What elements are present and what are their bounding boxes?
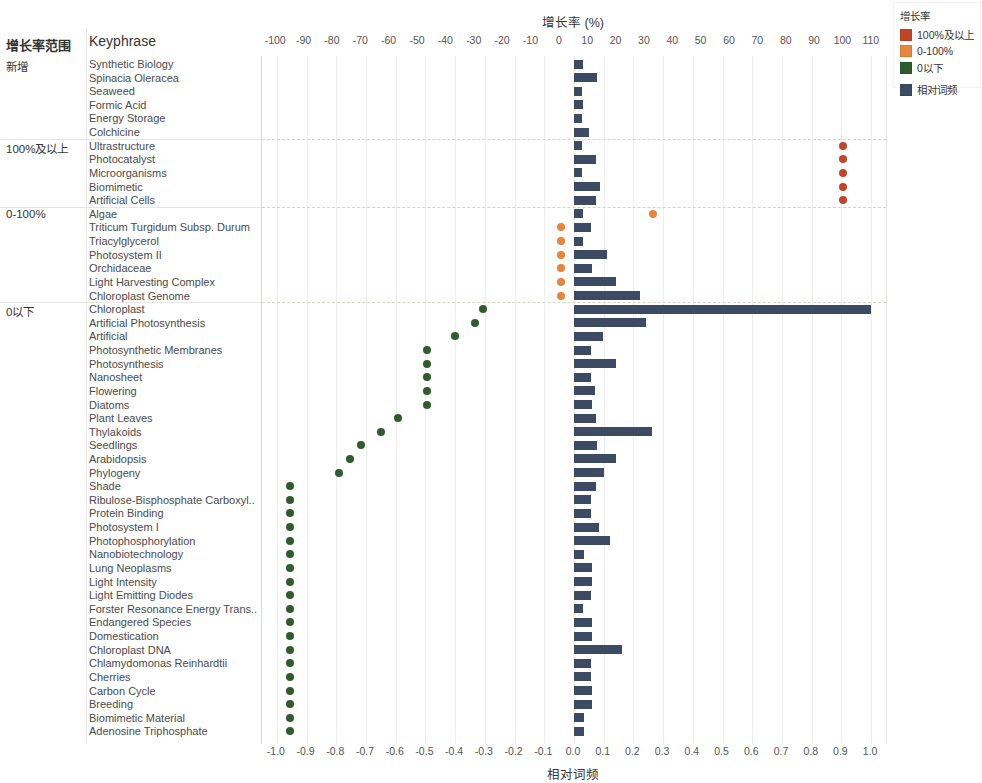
growth-rate-dot: [423, 387, 431, 395]
frequency-bar: [574, 700, 592, 709]
keyphrase-label: Shade: [89, 480, 121, 492]
frequency-bar: [574, 414, 596, 423]
growth-rate-dot: [471, 319, 479, 327]
keyphrase-label: Breeding: [89, 698, 133, 710]
top-axis-tick: 100: [834, 34, 852, 46]
keyphrase-label: Light Harvesting Complex: [89, 276, 215, 288]
column-header-keyphrase: Keyphrase: [89, 33, 156, 49]
legend-item[interactable]: 0-100%: [900, 45, 978, 57]
bottom-axis-tick: 0.7: [774, 745, 789, 757]
growth-rate-dot: [423, 401, 431, 409]
group-label-above100: 100%及以上: [6, 140, 68, 156]
frequency-bar: [574, 264, 592, 273]
frequency-bar: [574, 155, 596, 164]
keyphrase-label: Chloroplast: [89, 303, 145, 315]
growth-rate-dot: [286, 632, 294, 640]
frequency-bar: [574, 727, 584, 736]
growth-rate-dot: [286, 496, 294, 504]
plot-area: [261, 56, 887, 744]
keyphrase-label: Ribulose-Bisphosphate Carboxyl..: [89, 494, 255, 506]
gridline: [871, 56, 872, 744]
keyphrase-label: Ultrastructure: [89, 140, 155, 152]
frequency-bar: [574, 454, 616, 463]
gridline: [396, 56, 397, 744]
bottom-axis-tick: 1.0: [863, 745, 878, 757]
top-axis-tick: -10: [523, 34, 538, 46]
keyphrase-label: Artificial: [89, 330, 128, 342]
legend-item-label: 0以下: [917, 60, 943, 75]
keyphrase-label: Photosynthesis: [89, 358, 164, 370]
frequency-bar: [574, 291, 640, 300]
gridline: [604, 56, 605, 744]
frequency-bar: [574, 223, 591, 232]
keyphrase-label: Colchicine: [89, 126, 140, 138]
growth-rate-dot: [286, 509, 294, 517]
keyphrase-label: Protein Binding: [89, 507, 164, 519]
keyphrase-label: Synthetic Biology: [89, 58, 173, 70]
top-axis-tick: -100: [265, 34, 286, 46]
keyphrase-label: Biomimetic Material: [89, 712, 185, 724]
keyphrase-label: Energy Storage: [89, 112, 165, 124]
frequency-bar: [574, 686, 592, 695]
top-axis-tick: -30: [466, 34, 481, 46]
keyphrase-label: Carbon Cycle: [89, 685, 156, 697]
keyphrase-label: Nanobiotechnology: [89, 548, 183, 560]
growth-rate-dot: [557, 264, 565, 272]
growth-rate-dot: [286, 687, 294, 695]
legend-item[interactable]: 相对词频: [900, 82, 978, 97]
bottom-axis-tick: 0.8: [803, 745, 818, 757]
top-axis-tick: -20: [494, 34, 509, 46]
frequency-bar: [574, 209, 583, 218]
top-axis-tick: 110: [862, 34, 879, 46]
frequency-bar: [574, 604, 583, 613]
bottom-axis-tick: -0.4: [445, 745, 463, 757]
growth-rate-dot: [649, 210, 657, 218]
growth-rate-dot: [377, 428, 385, 436]
keyphrase-label: Thylakoids: [89, 426, 142, 438]
growth-rate-dot: [286, 646, 294, 654]
frequency-bar: [574, 645, 622, 654]
top-axis-tick: 10: [581, 34, 593, 46]
gridline: [663, 56, 664, 744]
frequency-bar: [574, 386, 595, 395]
keyphrase-label: Light Intensity: [89, 576, 157, 588]
legend-item[interactable]: 0以下: [900, 60, 978, 75]
keyphrase-label: Photophosphorylation: [89, 535, 195, 547]
frequency-bar: [574, 182, 600, 191]
bottom-axis-tick: 0.3: [655, 745, 670, 757]
bottom-axis-tick: -1.0: [267, 745, 285, 757]
growth-rate-dot: [557, 237, 565, 245]
keyphrase-label: Artificial Cells: [89, 194, 155, 206]
chart-root: 增长率范围 Keyphrase 增长率 (%) 相对词频 -100-90-80-…: [0, 0, 982, 783]
bottom-axis-title: 相对词频: [261, 764, 885, 783]
gridline: [782, 56, 783, 744]
top-axis-title: 增长率 (%): [261, 12, 885, 31]
growth-rate-dot: [335, 469, 343, 477]
frequency-bar: [574, 577, 592, 586]
growth-rate-dot: [286, 673, 294, 681]
growth-rate-dot: [286, 550, 294, 558]
group-separator: [262, 139, 886, 140]
frequency-bar: [574, 73, 597, 82]
gridline: [693, 56, 694, 744]
group-separator: [262, 302, 886, 303]
frequency-bar: [574, 318, 646, 327]
keyphrase-label: Triacylglycerol: [89, 235, 159, 247]
bottom-axis-tick: 0.6: [744, 745, 759, 757]
legend-item[interactable]: 100%及以上: [900, 27, 978, 42]
legend-item-label: 100%及以上: [917, 27, 974, 42]
bottom-axis-tick: -0.2: [505, 745, 523, 757]
frequency-bar: [574, 550, 584, 559]
frequency-bar: [574, 373, 591, 382]
gridline: [366, 56, 367, 744]
keyphrase-label: Triticum Turgidum Subsp. Durum: [89, 221, 250, 233]
bottom-axis-tick: -0.5: [415, 745, 433, 757]
frequency-bar: [574, 495, 591, 504]
bottom-axis-tick: 0.0: [566, 745, 581, 757]
frequency-bar: [574, 441, 597, 450]
frequency-bar: [574, 60, 583, 69]
bottom-axis-tick: -0.9: [297, 745, 315, 757]
growth-rate-dot: [451, 332, 459, 340]
frequency-bar: [574, 196, 596, 205]
keyphrase-label: Chloroplast Genome: [89, 290, 190, 302]
